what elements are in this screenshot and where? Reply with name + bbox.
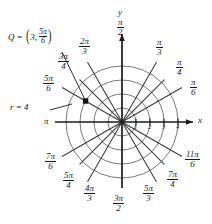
angle-label-seven-pi-over-6: 7π 6	[45, 152, 56, 171]
angle-label-eleven-pi-over-6: 11π 6	[185, 150, 200, 169]
x-tick-label-1: 1	[134, 124, 137, 131]
angle-label-five-pi-over-3-den: 3	[143, 193, 154, 203]
angle-label-pi-over-2-num: π	[117, 18, 124, 27]
angle-label-seven-pi-over-4-num: 7π	[167, 170, 178, 179]
angle-label-two-pi-over-3: 2π 3	[79, 37, 90, 56]
y-axis	[119, 34, 125, 188]
angle-label-five-pi-over-6: 5π 6	[43, 74, 54, 93]
angle-label-four-pi-over-3-den: 3	[84, 193, 95, 203]
angle-label-five-pi-over-4: 5π 4	[63, 171, 74, 190]
angle-label-eleven-pi-over-6-num: 11π	[185, 150, 200, 159]
angle-label-pi-over-4: π 4	[176, 58, 183, 77]
angle-label-pi-over-6: π 6	[190, 78, 197, 97]
angle-label-seven-pi-over-4-den: 4	[167, 179, 178, 189]
angle-label-pi-over-2-den: 2	[117, 27, 124, 37]
q-label-comma: ,	[35, 32, 37, 42]
angle-label-eleven-pi-over-6-den: 6	[185, 159, 200, 169]
q-label-angle-fraction: 5π 6	[39, 28, 47, 45]
q-label-angle-denominator: 6	[39, 36, 47, 45]
x-tick-label-3: 3	[162, 124, 165, 131]
angle-label-three-pi-over-4: 3π 4	[58, 52, 69, 71]
x-axis-arrow	[186, 119, 193, 125]
angle-label-pi-over-6-num: π	[190, 78, 197, 87]
angle-label-pi-over-4-num: π	[176, 58, 183, 67]
angle-label-pi-over-3: π 3	[156, 38, 163, 57]
angle-label-pi-over-6-den: 6	[190, 87, 197, 97]
angle-label-two-pi-over-3-den: 3	[79, 46, 90, 56]
angle-label-four-pi-over-3-num: 4π	[84, 184, 95, 193]
angle-label-pi-over-3-num: π	[156, 38, 163, 47]
q-label-close-paren: )	[48, 29, 52, 43]
radius-annotation: r = 4	[10, 102, 29, 112]
point-q-label: Q = ( 3 , 5π 6 )	[8, 28, 53, 45]
angle-label-five-pi-over-4-num: 5π	[63, 171, 74, 180]
angle-label-three-pi-over-2: 3π 2	[113, 194, 124, 213]
angle-label-seven-pi-over-4: 7π 4	[167, 170, 178, 189]
r-leader-line	[50, 104, 72, 110]
angle-label-five-pi-over-3-num: 5π	[143, 184, 154, 193]
angle-label-three-pi-over-4-num: 3π	[58, 52, 69, 61]
angle-label-three-pi-over-2-num: 3π	[113, 194, 124, 203]
angle-label-pi: π	[44, 117, 49, 126]
x-tick-label-2: 2	[148, 124, 151, 131]
angle-label-five-pi-over-4-den: 4	[63, 180, 74, 190]
q-label-equals: =	[17, 32, 23, 42]
angle-label-five-pi-over-6-den: 6	[43, 83, 54, 93]
q-label-angle-numerator: 5π	[39, 28, 47, 36]
angle-label-seven-pi-over-6-num: 7π	[45, 152, 56, 161]
angle-label-pi-over-4-den: 4	[176, 67, 183, 77]
angle-label-two-pi-over-3-num: 2π	[79, 37, 90, 46]
polar-graph-figure: Q = ( 3 , 5π 6 ) r = 4 y x 1 2 3 4 π 2 π…	[0, 0, 212, 224]
angle-label-five-pi-over-3: 5π 3	[143, 184, 154, 203]
angle-label-three-pi-over-4-den: 4	[58, 61, 69, 71]
angle-label-five-pi-over-6-num: 5π	[43, 74, 54, 83]
angle-label-three-pi-over-2-den: 2	[113, 203, 124, 213]
angle-label-pi-over-2: π 2	[117, 18, 124, 37]
q-label-open-paren: (	[26, 29, 30, 43]
x-tick-label-4: 4	[176, 124, 179, 131]
x-axis-label: x	[198, 116, 202, 125]
angle-label-pi-over-3-den: 3	[156, 47, 163, 57]
angle-label-seven-pi-over-6-den: 6	[45, 161, 56, 171]
q-label-name: Q	[8, 32, 15, 42]
angle-label-four-pi-over-3: 4π 3	[84, 184, 95, 203]
y-axis-label: y	[118, 8, 122, 17]
point-q-marker	[83, 98, 88, 103]
